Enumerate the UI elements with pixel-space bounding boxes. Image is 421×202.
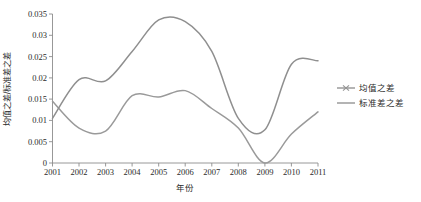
legend-item-mean-difference[interactable]: 均值之差 [337, 83, 395, 93]
y-tick-label: 0.03 [32, 30, 47, 40]
y-tick-label: 0.005 [28, 137, 47, 147]
x-tick-marks [53, 163, 319, 167]
x-tick-label: 2006 [177, 167, 194, 177]
x-tick-label: 2004 [124, 167, 142, 177]
series-line-mean-difference [53, 90, 319, 163]
y-axis-title: 均值之差/标准差之差 [2, 52, 12, 127]
y-tick-label: 0.02 [32, 73, 47, 83]
x-tick-label: 2003 [97, 167, 114, 177]
x-tick-label: 2010 [283, 167, 300, 177]
legend-label: 标准差之差 [359, 98, 404, 108]
x-axis-title: 年份 [176, 183, 194, 193]
y-tick-label: 0.025 [28, 52, 47, 62]
chart-figure: 0 0.005 0.01 0.015 0.02 0.025 0.03 0.035… [0, 0, 421, 202]
series-line-stddev-difference [53, 17, 319, 134]
x-tick-label: 2009 [256, 167, 273, 177]
y-tick-labels: 0 0.005 0.01 0.015 0.02 0.025 0.03 0.035 [28, 9, 47, 168]
axes-group [53, 14, 319, 163]
line-chart: 0 0.005 0.01 0.015 0.02 0.025 0.03 0.035… [0, 0, 421, 202]
x-tick-label: 2001 [44, 167, 61, 177]
legend-label: 均值之差 [359, 83, 395, 93]
y-tick-label: 0.015 [28, 94, 47, 104]
legend: 均值之差 标准差之差 [337, 83, 404, 108]
x-tick-label: 2011 [310, 167, 327, 177]
x-tick-labels: 2001 2002 2003 2004 2005 2006 2007 2008 … [44, 167, 326, 177]
y-tick-label: 0.035 [28, 9, 47, 19]
x-tick-label: 2005 [150, 167, 167, 177]
x-tick-label: 2007 [203, 167, 220, 177]
y-tick-marks [49, 14, 53, 163]
legend-item-stddev-difference[interactable]: 标准差之差 [337, 98, 404, 108]
x-tick-label: 2008 [230, 167, 247, 177]
y-tick-label: 0.01 [32, 115, 47, 125]
x-tick-label: 2002 [71, 167, 88, 177]
